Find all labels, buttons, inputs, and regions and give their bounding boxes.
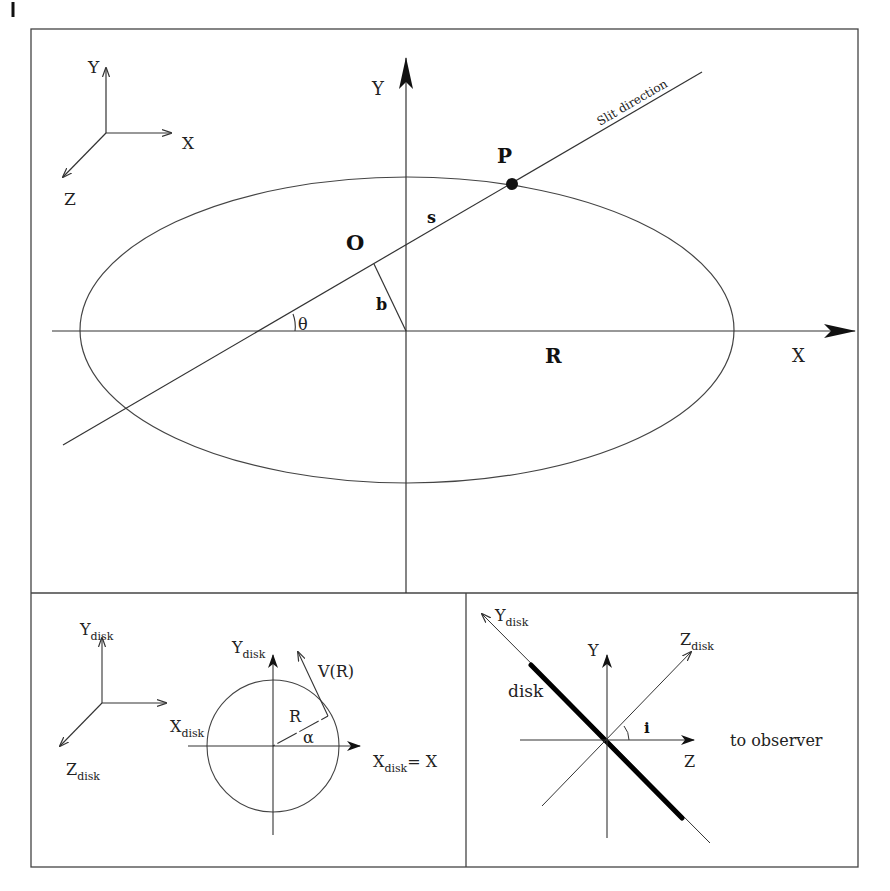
velocity-label: V(R) (317, 662, 354, 681)
z-sky-label: Z (684, 752, 695, 771)
inclination-arc (624, 726, 629, 740)
ydisk-tilted-label: Ydisk (494, 606, 529, 629)
small-axes-xyz: Y X Z (63, 57, 195, 209)
inclination-i-label: i (644, 719, 650, 737)
x-axis-label: X (792, 345, 805, 366)
bottom-right-panel: Ydisk Zdisk Y Z disk i to observer (482, 606, 823, 843)
theta-label: θ (298, 315, 308, 334)
small-ydisk-label: Ydisk (79, 620, 114, 643)
disk-small-axes: Ydisk Zdisk (60, 620, 166, 783)
galaxy-ellipse (80, 177, 734, 483)
small-z-label: Z (64, 189, 76, 209)
radius-r-label: R (289, 707, 302, 726)
y-axis-label: Y (371, 78, 385, 99)
origin-o-label: O (346, 230, 364, 255)
xdisk-equals-x-label: Xdisk= X (373, 752, 438, 775)
r-label: R (545, 344, 562, 368)
small-zdisk-label: Zdisk (66, 760, 100, 783)
bottom-left-panel: Ydisk Zdisk Ydisk Xdisk Xdisk= X R α V(R… (60, 620, 438, 835)
point-p-label: P (497, 144, 512, 168)
b-label: b (376, 295, 387, 314)
zdisk-tilted-label: Zdisk (680, 630, 714, 653)
xdisk-left-label: Xdisk (170, 717, 205, 740)
y-sky-label: Y (587, 641, 599, 660)
small-y-label: Y (87, 57, 100, 77)
s-label: s (427, 208, 436, 227)
slit-direction-label: Slit direction (594, 76, 670, 128)
small-x-label: X (182, 133, 195, 153)
disk-label: disk (508, 681, 544, 701)
top-panel: Y X Z X Y Slit direction P O s b θ R (52, 57, 855, 593)
alpha-label: α (303, 728, 314, 747)
zdisk-tilted-axis (542, 652, 691, 806)
disk-geometry-figure: Y X Z X Y Slit direction P O s b θ R (0, 0, 890, 891)
circle-ydisk-label: Ydisk (231, 638, 266, 661)
to-observer-label: to observer (730, 731, 823, 750)
slit-direction-line (63, 72, 702, 445)
point-p-marker (506, 178, 518, 190)
theta-arc (293, 314, 295, 331)
